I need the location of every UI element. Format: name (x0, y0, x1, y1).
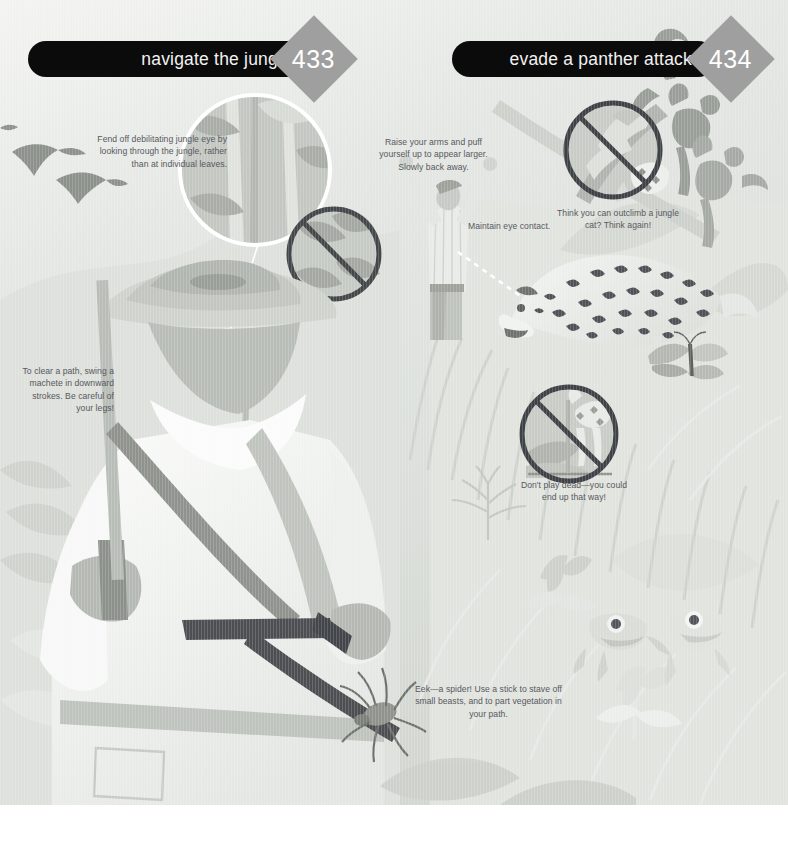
caption-machete-strokes: To clear a path, swing a machete in down… (18, 365, 114, 415)
caption-maintain-eye-contact: Maintain eye contact. (468, 220, 568, 232)
caption-jungle-eye: Fend off debilitating jungle eye by look… (86, 133, 227, 170)
page-number-left: 433 (292, 45, 335, 74)
caption-outclimb-jungle-cat: Think you can outclimb a jungle cat? Thi… (557, 207, 679, 232)
banner-evade-a-panther-attack: evade a panther attack (452, 41, 716, 77)
caption-spider-stick: Eek—a spider! Use a stick to stave off s… (408, 683, 569, 720)
page-number-right: 434 (709, 45, 752, 74)
caption-raise-arms: Raise your arms and puff yourself up to … (377, 136, 490, 173)
book-spread-page: navigate the jungle 433 evade a panther … (0, 0, 788, 841)
caption-dont-play-dead: Don't play dead—you could end up that wa… (513, 479, 635, 504)
jungle-illustration (0, 0, 788, 805)
banner-title-right: evade a panther attack (510, 49, 716, 70)
